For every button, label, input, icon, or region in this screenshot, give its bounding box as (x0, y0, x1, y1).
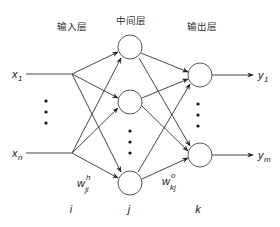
svg-text:n: n (18, 153, 23, 162)
weight-label-hidden: w h ji (77, 173, 91, 194)
svg-text:x: x (11, 68, 18, 80)
input-label-x1: x 1 (11, 68, 22, 83)
output-label-ym: y m (257, 149, 271, 164)
index-label-j: j (126, 203, 131, 215)
weight-label-output: w o kj (162, 171, 176, 192)
hidden-node-1 (118, 35, 142, 59)
output-layer-title: 输出层 (187, 21, 217, 32)
svg-text:1: 1 (264, 75, 268, 84)
input-hidden-connections (72, 52, 121, 178)
svg-text:ji: ji (84, 185, 89, 194)
hidden-layer-title: 中间层 (116, 15, 146, 26)
input-layer-title: 输入层 (57, 21, 87, 32)
index-label-k: k (195, 203, 201, 215)
svg-text:1: 1 (18, 74, 22, 83)
svg-text:x: x (11, 147, 18, 159)
svg-text:kj: kj (170, 183, 176, 192)
input-lines (26, 74, 72, 153)
svg-text:m: m (264, 155, 271, 164)
output-node-m (188, 143, 212, 167)
svg-text:o: o (171, 171, 176, 180)
output-node-1 (188, 63, 212, 87)
output-label-y1: y 1 (257, 69, 268, 84)
hidden-node-2 (118, 90, 142, 114)
input-label-xn: x n (11, 147, 23, 162)
neural-network-diagram: 输入层 中间层 输出层 (0, 0, 280, 227)
hidden-output-connections (138, 53, 190, 179)
svg-text:h: h (86, 173, 91, 182)
hidden-node-n (118, 171, 142, 195)
output-arrows (212, 75, 253, 155)
index-label-i: i (70, 203, 73, 215)
